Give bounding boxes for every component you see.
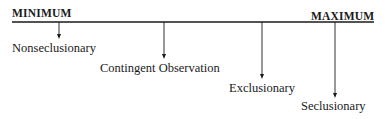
arrow-seclusionary [333,22,337,98]
maximum-label: MAXIMUM [311,11,374,23]
arrow-nonseclusionary [57,22,61,39]
label-nonseclusionary: Nonseclusionary [12,42,96,55]
minimum-label: MINIMUM [12,8,72,20]
arrow-contingent-observation [162,22,166,59]
label-seclusionary: Seclusionary [301,100,366,113]
label-contingent-observation: Contingent Observation [100,62,220,75]
arrow-exclusionary [260,22,264,79]
label-exclusionary: Exclusionary [229,82,295,95]
